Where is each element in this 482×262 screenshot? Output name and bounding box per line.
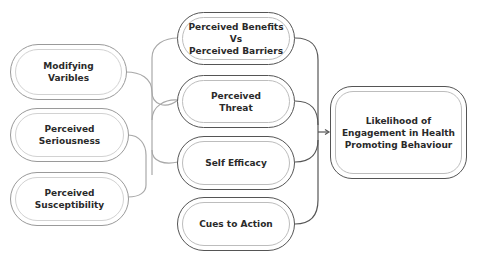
node-label: Cues to Action — [199, 218, 273, 230]
node-self-efficacy: Self Efficacy — [177, 136, 295, 190]
node-label: Perceived Benefits Vs Perceived Barriers — [188, 21, 283, 57]
node-label: Modifying Varibles — [43, 60, 93, 84]
node-likelihood-of-engagement: Likelihood of Engagement in Health Promo… — [330, 86, 467, 179]
node-label: Perceived Susceptibility — [35, 187, 104, 211]
node-perceived-benefits-vs-barriers: Perceived Benefits Vs Perceived Barriers — [177, 12, 295, 65]
node-perceived-susceptibility: Perceived Susceptibility — [10, 172, 129, 226]
node-label: Likelihood of Engagement in Health Promo… — [342, 115, 455, 151]
node-label: Perceived Seriousness — [39, 123, 100, 147]
node-modifying-variables: Modifying Varibles — [10, 44, 127, 100]
node-label: Self Efficacy — [205, 157, 267, 169]
node-perceived-threat: Perceived Threat — [177, 75, 295, 128]
node-cues-to-action: Cues to Action — [177, 197, 295, 251]
node-perceived-seriousness: Perceived Seriousness — [10, 108, 129, 162]
node-label: Perceived Threat — [211, 90, 261, 114]
